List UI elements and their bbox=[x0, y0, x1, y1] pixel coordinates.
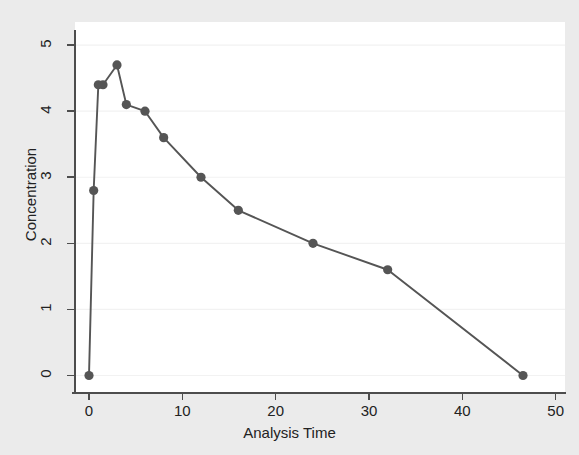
series-line bbox=[89, 65, 523, 376]
data-point-marker bbox=[112, 60, 121, 69]
data-point-marker bbox=[122, 100, 131, 109]
data-point-marker bbox=[308, 239, 317, 248]
x-tick-label: 30 bbox=[349, 402, 389, 419]
data-point-marker bbox=[98, 80, 107, 89]
chart-figure: 012345 01020304050 Concentration Analysi… bbox=[0, 0, 579, 455]
data-point-marker bbox=[383, 265, 392, 274]
y-axis-line bbox=[74, 30, 76, 394]
data-point-marker bbox=[89, 186, 98, 195]
data-point-marker bbox=[518, 371, 527, 380]
y-tick-mark bbox=[67, 44, 74, 46]
y-tick-label: 5 bbox=[37, 29, 54, 59]
x-tick-label: 40 bbox=[442, 402, 482, 419]
x-tick-label: 10 bbox=[162, 402, 202, 419]
data-point-marker bbox=[196, 173, 205, 182]
y-tick-label: 1 bbox=[37, 293, 54, 323]
y-axis-title: Concentration bbox=[22, 95, 39, 295]
y-tick-label: 4 bbox=[37, 95, 54, 125]
y-tick-mark bbox=[67, 375, 74, 377]
data-point-marker bbox=[140, 107, 149, 116]
x-tick-label: 20 bbox=[256, 402, 296, 419]
plot-area bbox=[75, 22, 565, 392]
x-tick-label: 0 bbox=[69, 402, 109, 419]
data-point-marker bbox=[234, 206, 243, 215]
y-tick-mark bbox=[67, 309, 74, 311]
x-axis-line bbox=[72, 392, 566, 394]
x-tick-label: 50 bbox=[536, 402, 576, 419]
y-tick-mark bbox=[67, 176, 74, 178]
data-point-marker bbox=[84, 371, 93, 380]
y-tick-label: 2 bbox=[37, 227, 54, 257]
data-point-marker bbox=[159, 133, 168, 142]
x-tick-mark bbox=[555, 393, 557, 400]
y-tick-mark bbox=[67, 110, 74, 112]
data-series-layer bbox=[75, 22, 565, 392]
y-tick-label: 0 bbox=[37, 359, 54, 389]
x-tick-mark bbox=[88, 393, 90, 400]
x-tick-mark bbox=[368, 393, 370, 400]
x-tick-mark bbox=[275, 393, 277, 400]
x-tick-mark bbox=[182, 393, 184, 400]
y-tick-mark bbox=[67, 243, 74, 245]
x-tick-mark bbox=[462, 393, 464, 400]
y-tick-label: 3 bbox=[37, 161, 54, 191]
x-axis-title: Analysis Time bbox=[0, 424, 579, 441]
